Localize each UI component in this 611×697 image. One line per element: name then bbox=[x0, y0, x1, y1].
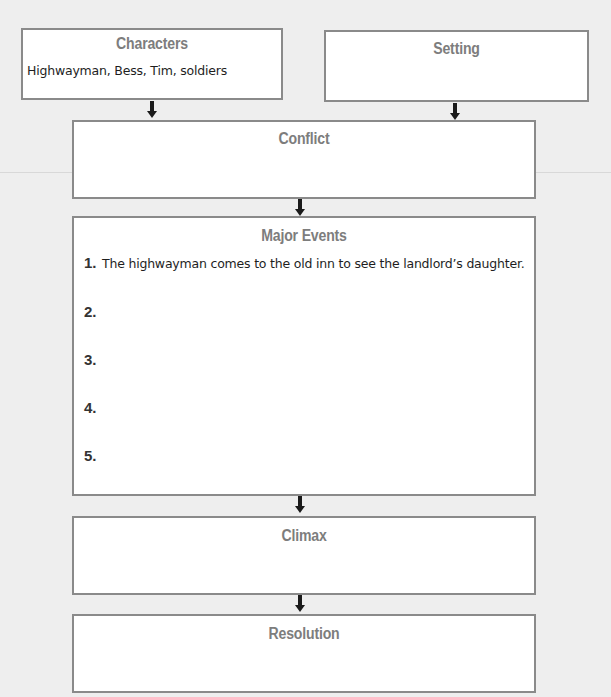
event-number: 1. bbox=[84, 254, 97, 271]
setting-box: Setting bbox=[324, 30, 589, 102]
arrow-down-icon bbox=[295, 199, 305, 217]
event-number: 3. bbox=[84, 351, 97, 368]
characters-heading: Characters bbox=[38, 35, 265, 53]
event-text[interactable]: The highwayman comes to the old inn to s… bbox=[102, 256, 525, 271]
resolution-heading: Resolution bbox=[102, 625, 507, 643]
arrow-down-icon bbox=[295, 595, 305, 613]
arrow-down-icon bbox=[295, 496, 305, 514]
event-number: 2. bbox=[84, 303, 97, 320]
major-events-heading: Major Events bbox=[102, 227, 507, 245]
event-number: 4. bbox=[84, 399, 97, 416]
characters-content[interactable]: Highwayman, Bess, Tim, soldiers bbox=[27, 63, 227, 78]
event-number: 5. bbox=[84, 447, 97, 464]
resolution-box: Resolution bbox=[72, 614, 536, 693]
arrow-down-icon bbox=[147, 101, 157, 119]
arrow-down-icon bbox=[450, 103, 460, 121]
climax-heading: Climax bbox=[102, 527, 507, 545]
characters-box: Characters Highwayman, Bess, Tim, soldie… bbox=[21, 28, 283, 100]
setting-heading: Setting bbox=[342, 40, 572, 58]
conflict-heading: Conflict bbox=[102, 130, 507, 148]
major-events-box: Major Events 1. The highwayman comes to … bbox=[72, 216, 536, 496]
climax-box: Climax bbox=[72, 516, 536, 595]
conflict-box: Conflict bbox=[72, 120, 536, 199]
